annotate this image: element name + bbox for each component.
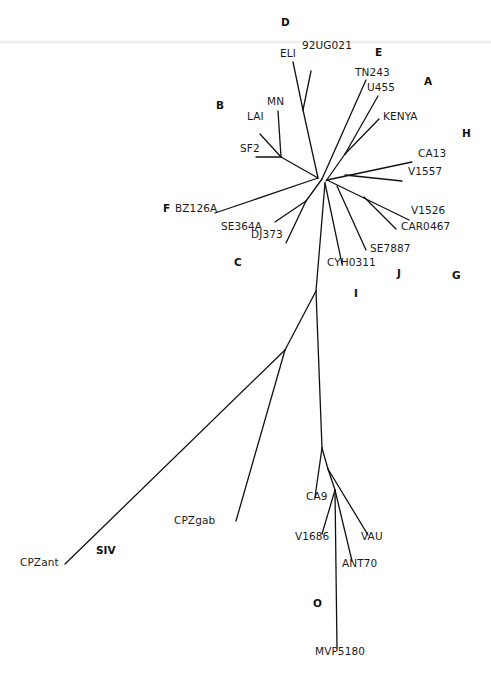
taxon-label: VAU [361, 531, 383, 542]
tree-branch [278, 111, 281, 157]
taxon-label: SF2 [240, 143, 260, 154]
tree-branch [364, 197, 396, 229]
tree-branch [260, 134, 281, 157]
clade-label: SIV [96, 545, 116, 556]
taxon-label: ELI [280, 48, 296, 59]
taxon-label: DJ373 [251, 229, 283, 240]
clade-label: D [281, 17, 290, 28]
scan-artifact [0, 40, 491, 44]
clade-label: G [452, 270, 461, 281]
clade-label: B [216, 100, 224, 111]
clade-label: H [462, 128, 471, 139]
taxon-label: V1686 [295, 531, 329, 542]
tree-branch [306, 179, 322, 201]
tree-branch [345, 175, 402, 181]
clade-label: J [397, 268, 401, 279]
tree-branch [285, 291, 316, 350]
tree-branch [327, 180, 409, 220]
taxon-label: BZ126A [175, 203, 217, 214]
taxon-label: KENYA [383, 111, 418, 122]
tree-branch [328, 469, 368, 535]
taxon-label: SE7887 [370, 243, 411, 254]
taxon-label: V1526 [411, 205, 445, 216]
tree-branch [335, 490, 352, 561]
taxon-label: CA9 [306, 491, 328, 502]
tree-branch [281, 157, 318, 178]
taxon-label: CYH0311 [327, 257, 376, 268]
taxon-label: U455 [367, 82, 395, 93]
taxon-label: CAR0467 [401, 221, 450, 232]
clade-label: F [163, 203, 170, 214]
tree-branch [303, 71, 311, 110]
tree-branch [325, 183, 342, 264]
taxon-label: CA13 [418, 148, 446, 159]
taxon-label: TN243 [355, 67, 390, 78]
tree-branch [337, 186, 366, 250]
tree-branch [293, 62, 303, 110]
taxon-label: LAI [247, 111, 264, 122]
tree-branch [316, 183, 325, 291]
clade-label: C [234, 257, 242, 268]
taxon-label: MVP5180 [315, 646, 365, 657]
taxon-label: ANT70 [342, 558, 377, 569]
taxon-label: CPZgab [174, 515, 215, 526]
clade-label: O [313, 598, 322, 609]
taxon-label: 92UG021 [302, 40, 352, 51]
tree-branch [316, 291, 322, 448]
clade-label: A [424, 76, 432, 87]
taxon-label: CPZant [20, 557, 59, 568]
taxon-label: V1557 [408, 166, 442, 177]
tree-branch [65, 350, 285, 564]
clade-label: E [375, 47, 382, 58]
clade-label: I [354, 288, 358, 299]
tree-branch [303, 110, 318, 178]
taxon-label: MN [267, 96, 284, 107]
tree-branch [335, 490, 337, 648]
tree-branch [236, 350, 285, 521]
tree-branch [322, 448, 328, 469]
phylogenetic-tree [0, 0, 491, 683]
